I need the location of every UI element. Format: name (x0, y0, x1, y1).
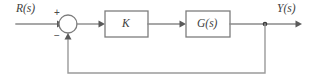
summing-junction-plus-sign: + (54, 8, 60, 18)
wire-gain-to-plant (148, 21, 186, 28)
arrowhead-into-gain-block (99, 21, 106, 28)
plant-block-label: G(s) (197, 18, 217, 30)
arrowhead-into-sum-bottom (65, 33, 72, 40)
wire-plant-to-output (230, 21, 302, 28)
summing-junction-circle (59, 15, 77, 33)
arrowhead-output (296, 21, 303, 28)
wire-input-to-sum (16, 21, 64, 28)
wire-sum-to-gain (77, 21, 105, 28)
block-diagram-canvas: R(s) Y(s) K G(s) + − (0, 0, 312, 83)
block-diagram-graphics (0, 0, 312, 83)
gain-block-label: K (122, 18, 130, 30)
wire-feedback-path (65, 24, 266, 73)
summing-junction-minus-sign: − (54, 31, 60, 41)
input-signal-label: R(s) (16, 3, 35, 15)
arrowhead-into-plant-block (180, 21, 187, 28)
output-signal-label: Y(s) (277, 3, 296, 15)
